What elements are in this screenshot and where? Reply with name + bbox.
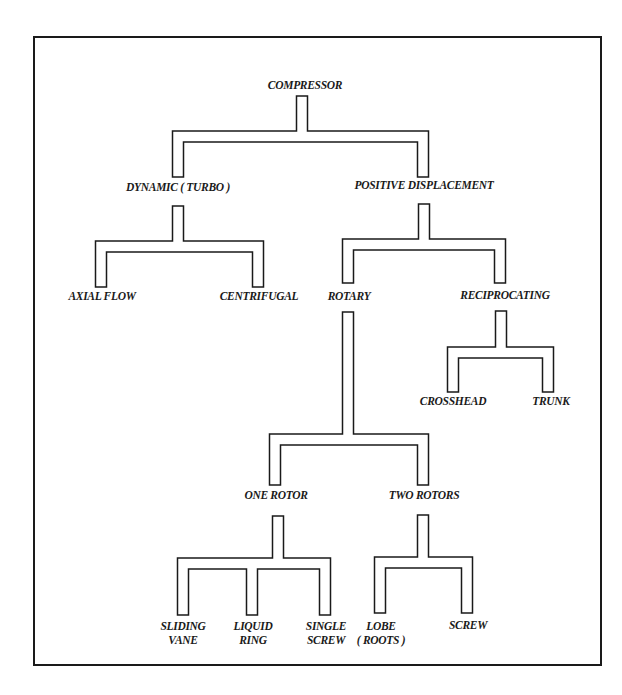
node-sliding-vane: SLIDINGVANE bbox=[160, 619, 205, 647]
node-label-line: ROTARY bbox=[328, 289, 371, 303]
node-label-line: RING bbox=[233, 633, 272, 647]
node-screw: SCREW bbox=[449, 618, 487, 632]
connector-two-rotors-branch bbox=[375, 515, 473, 613]
node-label-line: SCREW bbox=[306, 633, 346, 647]
node-label-line: LIQUID bbox=[233, 619, 272, 633]
node-axial-flow: AXIAL FLOW bbox=[68, 289, 135, 303]
node-two-rotors: TWO ROTORS bbox=[389, 488, 460, 502]
node-label-line: CROSSHEAD bbox=[420, 394, 486, 408]
node-label-line: SINGLE bbox=[306, 619, 346, 633]
node-label-line: COMPRESSOR bbox=[268, 78, 342, 92]
node-label-line: ONE ROTOR bbox=[244, 488, 307, 502]
node-compressor: COMPRESSOR bbox=[268, 78, 342, 92]
connector-one-rotor-branch bbox=[178, 516, 331, 615]
node-label-line: SCREW bbox=[449, 618, 487, 632]
node-label-line: SLIDING bbox=[160, 619, 205, 633]
diagram-canvas: COMPRESSORDYNAMIC ( TURBO )POSITIVE DISP… bbox=[0, 0, 622, 695]
node-reciprocating: RECIPROCATING bbox=[460, 288, 549, 302]
node-label-line: VANE bbox=[160, 633, 205, 647]
node-label-line: RECIPROCATING bbox=[460, 288, 549, 302]
connector-reciprocating-branch bbox=[448, 311, 554, 392]
connector-rotary-branch bbox=[270, 312, 429, 485]
node-liquid-ring: LIQUIDRING bbox=[233, 619, 272, 647]
node-single-screw: SINGLESCREW bbox=[306, 619, 346, 647]
node-trunk: TRUNK bbox=[532, 394, 569, 408]
node-label-line: ( ROOTS ) bbox=[357, 633, 405, 647]
node-label-line: AXIAL FLOW bbox=[68, 289, 135, 303]
node-lobe-roots: LOBE( ROOTS ) bbox=[357, 619, 405, 647]
node-label-line: LOBE bbox=[357, 619, 405, 633]
node-one-rotor: ONE ROTOR bbox=[244, 488, 307, 502]
node-centrifugal: CENTRIFUGAL bbox=[220, 289, 299, 303]
node-rotary: ROTARY bbox=[328, 289, 371, 303]
connector-dynamic-branch bbox=[96, 206, 264, 287]
node-label-line: TWO ROTORS bbox=[389, 488, 460, 502]
connector-layer bbox=[0, 0, 622, 695]
connector-compressor-branch bbox=[173, 96, 429, 177]
node-label-line: CENTRIFUGAL bbox=[220, 289, 299, 303]
node-crosshead: CROSSHEAD bbox=[420, 394, 486, 408]
node-label-line: TRUNK bbox=[532, 394, 569, 408]
node-dynamic: DYNAMIC ( TURBO ) bbox=[126, 180, 230, 194]
connector-pd-branch bbox=[343, 204, 506, 283]
node-label-line: POSITIVE DISPLACEMENT bbox=[354, 178, 493, 192]
node-label-line: DYNAMIC ( TURBO ) bbox=[126, 180, 230, 194]
node-positive-displacement: POSITIVE DISPLACEMENT bbox=[354, 178, 493, 192]
